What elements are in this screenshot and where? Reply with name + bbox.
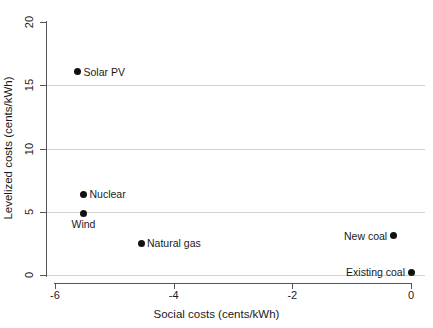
y-tick-label-text: 0 (24, 272, 35, 278)
x-tick-label-0: 0 (408, 290, 414, 301)
data-point[interactable] (138, 240, 145, 247)
x-tick-label--4: -4 (169, 290, 179, 301)
data-point-label: Wind (72, 219, 96, 230)
y-tick-label-text: 15 (24, 79, 35, 91)
data-point[interactable] (80, 210, 87, 217)
y-tick-15 (40, 85, 46, 86)
x-tick-label--2: -2 (287, 290, 297, 301)
gridline-y-5 (47, 212, 425, 213)
y-axis-line (46, 21, 47, 277)
y-tick-label-20: 20 (22, 22, 36, 23)
data-point-label: Natural gas (147, 238, 201, 249)
gridline-y-10 (47, 149, 425, 150)
data-point-label: New coal (344, 231, 387, 242)
y-tick-label-text: 5 (24, 209, 35, 215)
y-tick-label-15: 15 (22, 85, 36, 86)
y-tick-label-10: 10 (22, 149, 36, 150)
y-tick-label-text: 10 (24, 142, 35, 154)
data-point-label: Nuclear (89, 189, 125, 200)
x-axis-line (54, 283, 412, 284)
data-point[interactable] (74, 68, 81, 75)
data-point[interactable] (408, 269, 415, 276)
y-axis-title-container: Levelized costs (cents/kWh) (0, 0, 18, 296)
x-axis-title: Social costs (cents/kWh) (0, 308, 433, 320)
data-point-label: Solar PV (84, 67, 125, 78)
data-point[interactable] (390, 232, 397, 239)
data-point[interactable] (80, 191, 87, 198)
y-tick-label-text: 20 (24, 16, 35, 28)
scatter-chart-figure: 05101520 -6-4-20 Solar PVNuclearWindNatu… (0, 0, 433, 328)
y-tick-label-0: 0 (22, 275, 36, 276)
y-tick-label-5: 5 (22, 212, 36, 213)
gridline-y-15 (47, 85, 425, 86)
y-tick-0 (40, 275, 46, 276)
data-point-label: Existing coal (346, 267, 405, 278)
y-tick-10 (40, 149, 46, 150)
y-axis-title: Levelized costs (cents/kWh) (3, 76, 15, 219)
x-tick-label--6: -6 (50, 290, 60, 301)
y-tick-5 (40, 212, 46, 213)
y-tick-20 (40, 22, 46, 23)
